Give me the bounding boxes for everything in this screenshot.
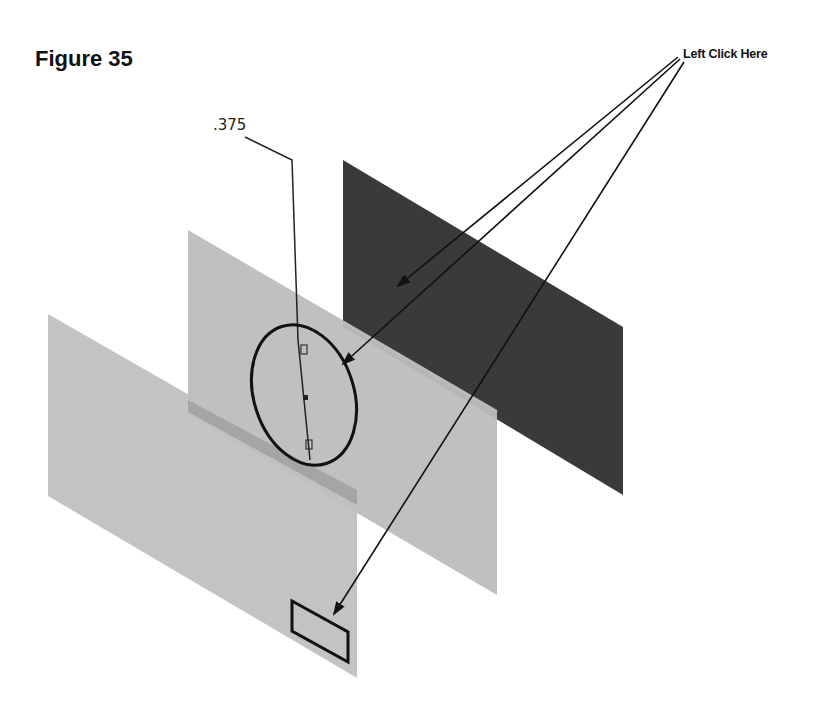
callout-arrow-top-plane [398,57,678,286]
midpoint-marker-icon [303,395,308,400]
cad-scene [0,0,837,718]
